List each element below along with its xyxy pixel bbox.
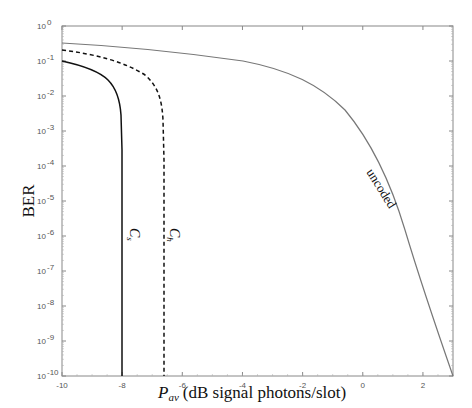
y-tick-exponent: -9 — [47, 333, 55, 342]
y-tick-label: 10 — [37, 162, 46, 171]
uncoded-curve — [62, 43, 453, 376]
y-tick-exponent: -7 — [47, 263, 55, 272]
y-tick-exponent: 0 — [47, 18, 52, 27]
y-tick-exponent: -10 — [47, 368, 59, 377]
cs-curve — [62, 61, 122, 376]
x-tick-label: 0 — [361, 381, 366, 390]
y-tick-label: 10 — [37, 372, 46, 381]
y-tick-label: 10 — [37, 232, 46, 241]
y-tick-label: 10 — [37, 197, 46, 206]
x-tick-label: -8 — [119, 381, 127, 390]
ber-chart: -10-8-6-4-20210010-110-210-310-410-510-6… — [0, 0, 472, 408]
y-tick-label: 10 — [37, 92, 46, 101]
y-tick-label: 10 — [37, 267, 46, 276]
y-tick-label: 10 — [37, 337, 46, 346]
y-tick-exponent: -8 — [47, 298, 55, 307]
y-tick-exponent: -2 — [47, 88, 55, 97]
y-tick-exponent: -5 — [47, 193, 55, 202]
cs-label: Cs — [125, 228, 142, 241]
y-tick-label: 10 — [37, 57, 46, 66]
y-tick-exponent: -1 — [47, 53, 55, 62]
x-tick-label: 2 — [421, 381, 426, 390]
y-axis-title: BER — [19, 184, 38, 218]
ch-curve — [62, 50, 164, 376]
x-axis-title: Pav(dB signal photons/slot) — [157, 383, 346, 403]
ch-label: Ch — [165, 228, 182, 242]
uncoded-label: uncoded — [363, 166, 399, 212]
y-tick-label: 10 — [37, 302, 46, 311]
x-tick-label: -10 — [56, 381, 68, 390]
y-tick-exponent: -6 — [47, 228, 55, 237]
y-tick-label: 10 — [37, 127, 46, 136]
y-tick-exponent: -3 — [47, 123, 55, 132]
y-tick-label: 10 — [37, 22, 46, 31]
y-tick-exponent: -4 — [47, 158, 55, 167]
